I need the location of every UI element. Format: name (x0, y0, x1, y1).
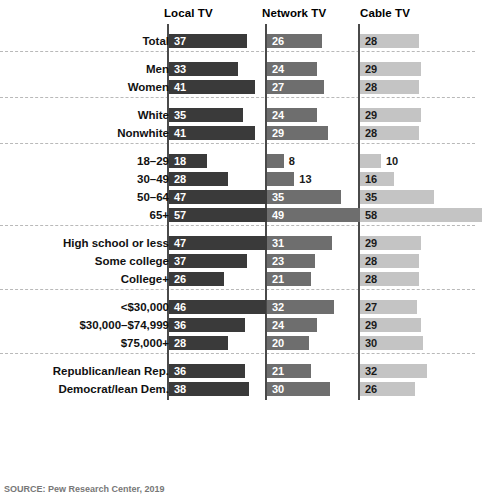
group-separator (0, 353, 475, 354)
value-label-local-tv-men: 33 (174, 62, 186, 76)
value-label-cable-tv-65: 58 (365, 208, 377, 222)
source-note: SOURCE: Pew Research Center, 2019 (4, 484, 165, 494)
row-label-women: Women (128, 80, 169, 94)
group-separator (0, 225, 475, 226)
row-label-30-49: 30–49 (137, 172, 169, 186)
value-label-cable-tv-50-64: 35 (365, 190, 377, 204)
value-label-cable-tv-high-school-or-less: 29 (365, 236, 377, 250)
row-label-some-college: Some college (95, 254, 169, 268)
value-label-cable-tv-democrat-lean-dem: 26 (365, 382, 377, 396)
value-label-cable-tv-nonwhite: 28 (365, 126, 377, 140)
value-label-network-tv-republican-lean-rep: 21 (272, 364, 284, 378)
value-label-cable-tv-75-000: 30 (365, 336, 377, 350)
value-label-local-tv-65: 57 (174, 208, 186, 222)
value-label-cable-tv-republican-lean-rep: 32 (365, 364, 377, 378)
group-separator (0, 51, 475, 52)
value-label-local-tv-30-49: 28 (174, 172, 186, 186)
value-label-network-tv-30-000: 32 (272, 300, 284, 314)
row-label-50-64: 50–64 (137, 190, 169, 204)
value-label-cable-tv-30-000: 27 (365, 300, 377, 314)
value-label-network-tv-nonwhite: 29 (272, 126, 284, 140)
bar-network-tv-18-29 (267, 154, 284, 168)
row-label-republican-lean-rep: Republican/lean Rep. (53, 364, 169, 378)
value-label-cable-tv-some-college: 28 (365, 254, 377, 268)
row-label-college: College+ (121, 272, 169, 286)
row-label-30-000-74-999: $30,000–$74,999 (79, 318, 169, 332)
value-label-network-tv-white: 24 (272, 108, 284, 122)
column-header-local-tv: Local TV (164, 7, 213, 19)
value-label-local-tv-50-64: 47 (174, 190, 186, 204)
value-label-local-tv-college: 26 (174, 272, 186, 286)
value-label-local-tv-high-school-or-less: 47 (174, 236, 186, 250)
row-label-total: Total (142, 34, 169, 48)
value-label-network-tv-30-000-74-999: 24 (272, 318, 284, 332)
value-label-local-tv-republican-lean-rep: 36 (174, 364, 186, 378)
value-label-local-tv-democrat-lean-dem: 38 (174, 382, 186, 396)
value-label-network-tv-women: 27 (272, 80, 284, 94)
group-separator (0, 289, 475, 290)
value-label-cable-tv-30-000-74-999: 29 (365, 318, 377, 332)
value-label-local-tv-30-000: 46 (174, 300, 186, 314)
value-label-network-tv-30-49: 13 (299, 172, 311, 186)
group-separator (0, 97, 475, 98)
value-label-local-tv-18-29: 18 (174, 154, 186, 168)
row-label-nonwhite: Nonwhite (117, 126, 169, 140)
column-header-network-tv: Network TV (262, 7, 326, 19)
row-label-democrat-lean-dem: Democrat/lean Dem. (58, 382, 169, 396)
row-label-high-school-or-less: High school or less (63, 236, 169, 250)
row-label-65: 65+ (149, 208, 169, 222)
value-label-cable-tv-30-49: 16 (365, 172, 377, 186)
value-label-local-tv-women: 41 (174, 80, 186, 94)
row-label-men: Men (146, 62, 169, 76)
bar-network-tv-30-49 (267, 172, 294, 186)
value-label-network-tv-democrat-lean-dem: 30 (272, 382, 284, 396)
group-separator (0, 143, 475, 144)
row-label-75-000: $75,000+ (121, 336, 169, 350)
value-label-network-tv-some-college: 23 (272, 254, 284, 268)
value-label-network-tv-75-000: 20 (272, 336, 284, 350)
value-label-local-tv-30-000-74-999: 36 (174, 318, 186, 332)
value-label-local-tv-some-college: 37 (174, 254, 186, 268)
row-label-white: White (138, 108, 169, 122)
row-label-18-29: 18–29 (137, 154, 169, 168)
value-label-network-tv-men: 24 (272, 62, 284, 76)
value-label-cable-tv-white: 29 (365, 108, 377, 122)
value-label-local-tv-nonwhite: 41 (174, 126, 186, 140)
value-label-cable-tv-men: 29 (365, 62, 377, 76)
value-label-network-tv-18-29: 8 (289, 154, 295, 168)
value-label-cable-tv-college: 28 (365, 272, 377, 286)
value-label-network-tv-college: 21 (272, 272, 284, 286)
value-label-local-tv-total: 37 (174, 34, 186, 48)
row-label-30-000: <$30,000 (121, 300, 169, 314)
value-label-cable-tv-total: 28 (365, 34, 377, 48)
value-label-local-tv-white: 35 (174, 108, 186, 122)
value-label-network-tv-50-64: 35 (272, 190, 284, 204)
value-label-network-tv-high-school-or-less: 31 (272, 236, 284, 250)
bar-cable-tv-65 (360, 208, 482, 222)
column-header-cable-tv: Cable TV (360, 7, 410, 19)
value-label-cable-tv-18-29: 10 (386, 154, 398, 168)
value-label-network-tv-total: 26 (272, 34, 284, 48)
value-label-local-tv-75-000: 28 (174, 336, 186, 350)
value-label-cable-tv-women: 28 (365, 80, 377, 94)
value-label-network-tv-65: 49 (272, 208, 284, 222)
bar-cable-tv-18-29 (360, 154, 381, 168)
